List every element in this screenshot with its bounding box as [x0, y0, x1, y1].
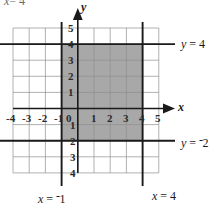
coordinate-graph-figure: xx = 4= 4 x y -4 -3 -2 -1 0 1 2 3 4 5 5 …: [0, 0, 223, 209]
y-tick-3: 3: [68, 55, 74, 66]
y-tick-neg4: 4: [70, 168, 76, 179]
y-tick-2: 2: [68, 71, 74, 82]
y-tick-neg3: 3: [70, 152, 76, 163]
x-tick-5: 5: [155, 113, 161, 124]
x-tick-neg4: -4: [6, 113, 15, 124]
x-tick-1: 1: [91, 113, 97, 124]
x-axis-letter: x: [178, 101, 184, 113]
label-y-equals-4-rest: = 4: [186, 37, 205, 51]
x-tick-neg1: -1: [54, 113, 63, 124]
y-tick-5: 5: [68, 23, 74, 34]
y-tick-1: 1: [68, 87, 74, 98]
top-cut-label: xx = 4= 4: [4, 0, 25, 7]
x-tick-2: 2: [107, 113, 113, 124]
x-tick-3: 3: [123, 113, 129, 124]
label-x-equals-neg1-rest: =: [43, 192, 56, 206]
label-x-equals-4: x = 4: [152, 190, 176, 202]
label-y-equals-neg2-rest: =: [186, 136, 199, 150]
x-tick-4: 4: [139, 113, 145, 124]
graph-canvas: [0, 0, 223, 209]
y-tick-neg1: 1: [70, 120, 76, 131]
x-tick-neg2: -2: [38, 113, 47, 124]
label-x-equals-neg1-num: 1: [60, 192, 66, 206]
label-x-equals-neg1: x = -1: [38, 190, 66, 205]
y-tick-neg2: 2: [70, 136, 76, 147]
label-y-equals-4: y = 4: [181, 38, 205, 50]
x-tick-neg3: -3: [22, 113, 31, 124]
y-tick-4: 4: [68, 39, 74, 50]
label-y-equals-neg2: y = -2: [181, 134, 209, 149]
label-x-equals-4-rest: = 4: [157, 189, 176, 203]
label-y-equals-neg2-num: 2: [203, 136, 209, 150]
y-axis-letter: y: [81, 1, 86, 13]
